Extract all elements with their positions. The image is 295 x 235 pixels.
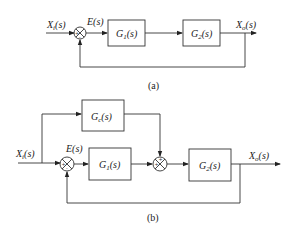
diagram-b: [18, 100, 280, 203]
b-error-label: E(s): [65, 143, 83, 155]
b-g2-label: G2(s): [199, 160, 221, 173]
a-caption: (a): [148, 80, 159, 92]
b-caption: (b): [147, 212, 159, 224]
b-g1-label: G1(s): [99, 159, 121, 172]
b-sum2-plus-sign-top: +: [159, 156, 163, 162]
a-output-label: Xo(s): [235, 19, 257, 32]
b-input-label: Xi(s): [15, 148, 35, 161]
diagram-a: [46, 20, 256, 67]
b-feedforward-branch: [42, 114, 81, 163]
b-gc-label: Gc(s): [91, 111, 113, 124]
a-g2-label: G2(s): [191, 28, 213, 41]
block-diagram-canvas: Xi(s) E(s) G1(s) G2(s) Xo(s) (a) + -: [0, 0, 295, 235]
a-g1-label: G1(s): [116, 28, 138, 41]
b-gc-sum2-line: [124, 114, 160, 156]
diagram-b-labels: Gc(s) Xi(s) E(s) G1(s) G2(s) Xo(s) (b) +…: [15, 111, 270, 224]
a-input-label: Xi(s): [46, 19, 66, 32]
a-minus-sign: -: [79, 34, 81, 40]
a-error-label: E(s): [86, 16, 104, 28]
b-sum1-minus-sign: -: [66, 165, 68, 171]
b-output-label: Xo(s): [248, 150, 270, 163]
